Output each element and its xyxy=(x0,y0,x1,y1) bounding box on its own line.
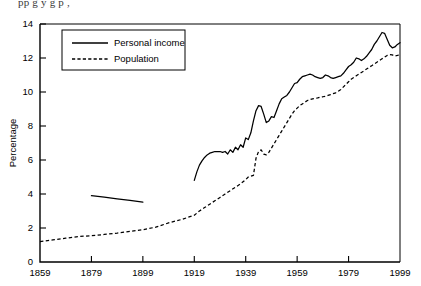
series-line-personal-income xyxy=(194,33,400,181)
x-tick-label: 1879 xyxy=(81,267,102,278)
x-tick-label: 1959 xyxy=(287,267,308,278)
y-tick-label: 4 xyxy=(28,188,33,199)
y-tick-label: 0 xyxy=(28,256,33,267)
y-axis-title: Percentage xyxy=(7,119,18,168)
y-tick-label: 10 xyxy=(22,86,33,97)
y-tick-label: 8 xyxy=(28,120,33,131)
figure-container: pp g y g p , 024681012141859187918991919… xyxy=(0,0,421,286)
y-tick-label: 12 xyxy=(22,52,33,63)
series-line-personal-income xyxy=(91,196,142,202)
legend-label: Population xyxy=(114,53,159,64)
x-tick-label: 1919 xyxy=(184,267,205,278)
chart-canvas: 0246810121418591879189919191939195919791… xyxy=(0,0,421,286)
x-tick-label: 1859 xyxy=(29,267,50,278)
x-tick-label: 1899 xyxy=(132,267,153,278)
series-line-population xyxy=(40,55,400,242)
x-tick-label: 1979 xyxy=(338,267,359,278)
plot-area: 0246810121418591879189919191939195919791… xyxy=(7,18,411,278)
y-tick-label: 6 xyxy=(28,154,33,165)
legend-label: Personal income xyxy=(114,37,185,48)
x-tick-label: 1939 xyxy=(235,267,256,278)
x-tick-label: 1999 xyxy=(389,267,410,278)
y-tick-label: 14 xyxy=(22,18,33,29)
y-tick-label: 2 xyxy=(28,222,33,233)
